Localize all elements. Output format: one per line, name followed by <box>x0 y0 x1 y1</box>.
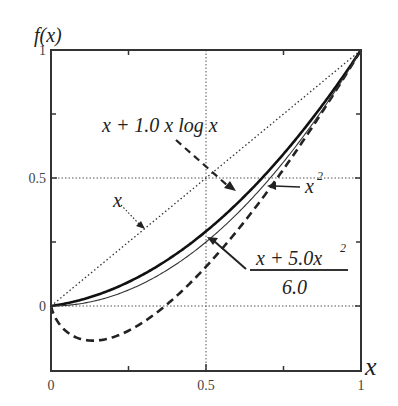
y-tick-0.5: 0.5 <box>29 171 47 186</box>
annotation-x-leader <box>121 205 141 226</box>
x-axis-label: x <box>364 352 377 381</box>
x-tick-1: 1 <box>358 378 365 393</box>
annotation-frac-exponent: 2 <box>340 241 346 255</box>
arrow-icon <box>136 221 145 229</box>
chart: 0 0.5 1 0 0.5 1 f(x) x x x + 1.0 x log x… <box>0 0 398 406</box>
x-tick-0.5: 0.5 <box>197 378 215 393</box>
ticks <box>51 50 361 371</box>
annotation-frac-denominator: 6.0 <box>282 276 307 298</box>
y-tick-0: 0 <box>39 299 46 314</box>
annotation-xlogx: x + 1.0 x log x <box>101 114 218 137</box>
curve-xlogx <box>51 50 361 341</box>
annotation-x2-leader <box>274 186 300 187</box>
annotation-x: x <box>112 189 122 211</box>
annotation-xlogx-leader <box>176 140 228 186</box>
grid <box>51 50 361 371</box>
annotation-x2: x <box>304 175 314 197</box>
annotation-frac-leader <box>214 241 246 269</box>
x-tick-0: 0 <box>48 378 55 393</box>
annotation-x2-exponent: 2 <box>317 169 323 183</box>
y-axis-label: f(x) <box>34 24 62 47</box>
arrow-icon <box>224 181 236 191</box>
curves <box>51 50 361 341</box>
annotation-frac-numerator: x + 5.0x <box>255 247 322 269</box>
plot-frame <box>51 50 361 371</box>
arrow-icon <box>267 182 276 190</box>
